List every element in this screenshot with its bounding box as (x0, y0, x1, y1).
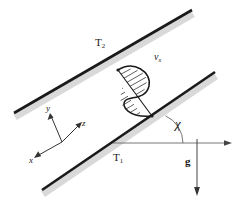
axis-y-label: y (46, 104, 50, 113)
axis-x-label: x (29, 156, 33, 165)
upper-plate-temperature-label: T2 (95, 37, 105, 50)
gravity-arrowhead (194, 187, 200, 196)
lower-plate-temperature-subscript: 1 (120, 157, 123, 164)
inclination-angle-label: χ (175, 117, 181, 130)
velocity-profile-label-subscript: x (158, 56, 161, 63)
gravity-label: g (185, 156, 191, 167)
axis-x-arrowhead (34, 151, 41, 158)
upper-plate-temperature-subscript: 2 (102, 42, 105, 49)
axis-y-line (51, 116, 62, 142)
gravity-vector (194, 139, 200, 196)
axis-z-label: z (82, 119, 86, 128)
velocity-profile-group (116, 66, 153, 117)
upper-plate-temperature-base: T (95, 36, 102, 48)
horizontal-reference-axis (113, 140, 232, 146)
lower-plate-temperature-label: T1 (113, 152, 123, 165)
axis-z-line (62, 124, 80, 142)
velocity-profile-label: vx (154, 52, 161, 63)
coordinate-triad (37, 116, 80, 156)
upper-plate-line (14, 10, 192, 113)
horizontal-arrowhead (224, 140, 232, 146)
diagram-svg (0, 0, 236, 207)
axis-x-line (37, 142, 62, 156)
upper-plate-shadow (15, 14, 193, 117)
velocity-upper-contact-dot (116, 68, 119, 71)
coordinate-triad-arrowheads (34, 113, 82, 158)
velocity-lower-contact-dot (150, 114, 153, 117)
lower-plate-temperature-base: T (113, 151, 120, 163)
figure-canvas: T2 T1 vx χ g y z x (0, 0, 236, 207)
